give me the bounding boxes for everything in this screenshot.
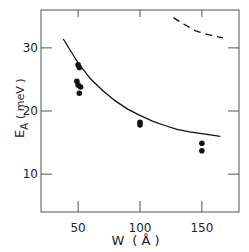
x-axis-unit: ( Å ) bbox=[132, 233, 159, 248]
chart: 50100150102030W( Å )EA( meV ) bbox=[0, 0, 249, 252]
data-point bbox=[137, 122, 143, 128]
y-tick-label: 10 bbox=[23, 167, 38, 181]
x-tick-label: 150 bbox=[190, 221, 213, 235]
plot-frame bbox=[41, 10, 239, 212]
x-axis-title: W bbox=[112, 233, 125, 248]
data-point bbox=[77, 91, 83, 97]
data-point bbox=[199, 148, 205, 154]
data-point bbox=[78, 84, 84, 90]
data-point bbox=[199, 140, 205, 146]
x-tick-label: 50 bbox=[70, 221, 85, 235]
dashed-curve bbox=[173, 18, 223, 38]
y-tick-label: 30 bbox=[23, 41, 38, 55]
